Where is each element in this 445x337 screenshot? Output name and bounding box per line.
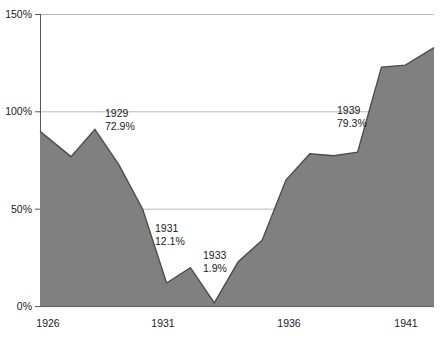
x-axis-label-1931: 1931 [143, 318, 183, 329]
annotation-1929-year: 1929 [105, 107, 135, 120]
annotation-1929: 1929 72.9% [105, 107, 135, 132]
series-area-fill [40, 48, 434, 307]
annotation-1931: 1931 12.1% [155, 222, 185, 247]
y-axis-ticks [35, 15, 40, 307]
x-axis-label-1941: 1941 [386, 318, 426, 329]
x-axis-label-1926: 1926 [28, 318, 68, 329]
annotation-1939: 1939 79.3% [337, 104, 367, 129]
annotation-1929-value: 72.9% [105, 120, 135, 133]
y-axis-label-150: 150% [0, 9, 32, 20]
y-axis-label-0: 0% [0, 301, 32, 312]
annotation-1931-year: 1931 [155, 222, 185, 235]
annotation-1931-value: 12.1% [155, 235, 185, 248]
annotation-1933-value: 1.9% [203, 262, 227, 275]
chart-plot-area [0, 0, 445, 337]
y-axis-label-100: 100% [0, 106, 32, 117]
annotation-1933: 1933 1.9% [203, 249, 227, 274]
area-chart: 150% 100% 50% 0% 1926 1931 1936 1941 192… [0, 0, 445, 337]
y-axis-label-50: 50% [0, 204, 32, 215]
annotation-1939-year: 1939 [337, 104, 367, 117]
annotation-1933-year: 1933 [203, 249, 227, 262]
annotation-1939-value: 79.3% [337, 117, 367, 130]
x-axis-label-1936: 1936 [269, 318, 309, 329]
